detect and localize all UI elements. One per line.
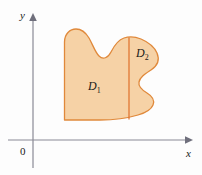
y-axis-arrowhead	[29, 13, 37, 21]
region-label-d1-subscript: 1	[97, 86, 101, 95]
math-figure: y x 0 D1 D2	[0, 0, 202, 175]
y-axis-label: y	[19, 9, 25, 21]
x-axis-arrowhead	[185, 136, 193, 144]
region-label-d2-subscript: 2	[145, 53, 149, 62]
shaded-region	[65, 29, 159, 120]
region-label-d2-letter: D	[135, 46, 145, 60]
figure-canvas: y x 0 D1 D2	[0, 0, 202, 175]
region-label-d1-letter: D	[87, 79, 97, 93]
x-axis-label: x	[185, 147, 191, 159]
origin-label: 0	[20, 145, 26, 157]
